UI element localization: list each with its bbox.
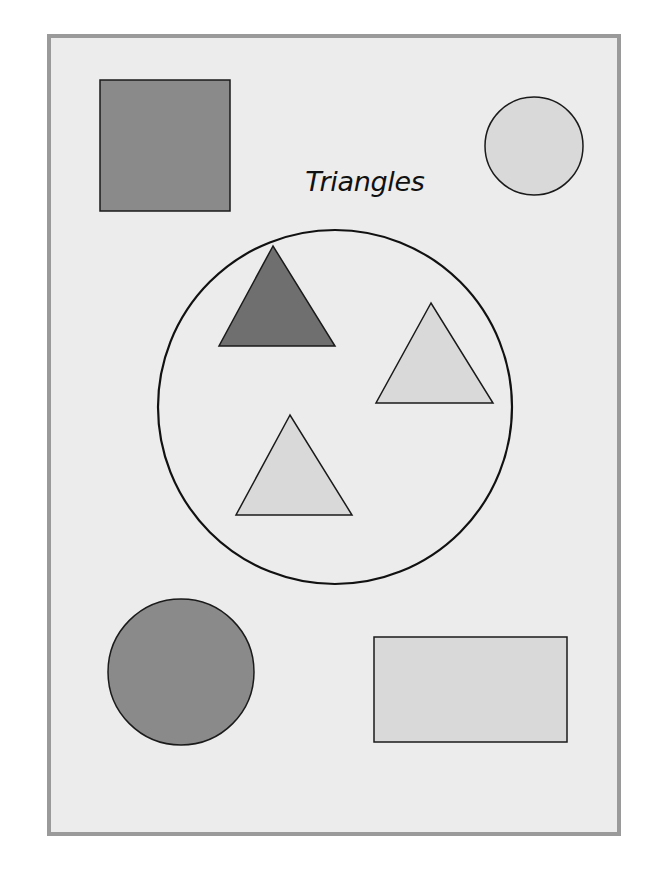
light-rectangle <box>374 637 567 742</box>
light-triangle-bottom <box>236 415 352 515</box>
dark-circle <box>108 599 254 745</box>
light-circle-small <box>485 97 583 195</box>
set-label-triangles: Triangles <box>290 166 440 197</box>
dark-square <box>100 80 230 211</box>
light-triangle-right <box>376 303 493 403</box>
triangles-set-circle <box>158 230 512 584</box>
venn-diagram-canvas <box>0 0 658 872</box>
